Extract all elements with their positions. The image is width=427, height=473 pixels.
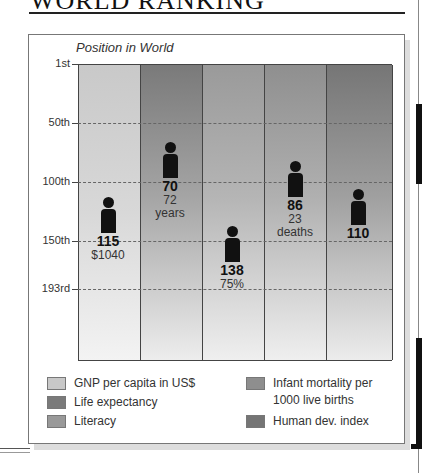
page-edge-foot <box>411 444 422 449</box>
person-icon <box>227 226 238 237</box>
legend-label: Life expectancy <box>74 395 157 410</box>
gridline <box>78 123 392 124</box>
page-divider <box>0 452 30 453</box>
person-icon <box>353 189 364 200</box>
rank-value: 115 <box>78 234 138 249</box>
rank-value: 110 <box>328 226 388 241</box>
rank-annotation-unit: years <box>140 207 200 220</box>
legend-label: Infant mortality per <box>273 376 372 391</box>
y-tick-label: 100th <box>30 175 70 187</box>
rank-annotation-unit: deaths <box>265 226 325 239</box>
rank-marker-human-dev-index: 110 <box>328 189 388 241</box>
y-tick-label: 1st <box>30 57 70 69</box>
rank-annotation: 75% <box>202 278 262 291</box>
title-divider <box>29 12 405 14</box>
person-icon <box>351 201 366 225</box>
rank-value: 86 <box>265 198 325 213</box>
rank-value: 70 <box>140 179 200 194</box>
y-tick-label: 150th <box>30 234 70 246</box>
rank-marker-gnp: 115 $1040 <box>78 197 138 262</box>
rank-marker-literacy: 138 75% <box>202 226 262 291</box>
rank-marker-infant-mortality: 86 23 deaths <box>265 161 325 239</box>
legend-swatch <box>246 415 265 428</box>
column-literacy <box>202 65 265 360</box>
legend-label: Human dev. index <box>273 414 369 429</box>
chart-subtitle: Position in World <box>76 40 174 55</box>
gridline <box>78 182 392 183</box>
legend-swatch <box>47 415 66 428</box>
rank-marker-life-expectancy: 70 72 years <box>140 142 200 220</box>
person-icon <box>288 173 303 197</box>
page-divider <box>0 448 30 449</box>
legend-swatch <box>246 377 265 390</box>
person-icon <box>165 142 176 153</box>
legend-swatch <box>47 396 66 409</box>
page-edge-bar <box>416 338 422 448</box>
y-tick-label: 193rd <box>30 282 70 294</box>
legend-swatch <box>47 377 66 390</box>
legend-label-line2: 1000 live births <box>273 393 354 408</box>
y-tick-label: 50th <box>30 116 70 128</box>
person-icon <box>225 238 240 262</box>
person-icon <box>103 197 114 208</box>
legend-label: GNP per capita in US$ <box>74 376 195 391</box>
rank-value: 138 <box>202 263 262 278</box>
person-icon <box>290 161 301 172</box>
person-icon <box>163 154 178 178</box>
page-edge-bar <box>416 104 422 184</box>
person-icon <box>101 209 116 233</box>
rank-annotation: $1040 <box>78 249 138 262</box>
legend-label: Literacy <box>74 414 116 429</box>
